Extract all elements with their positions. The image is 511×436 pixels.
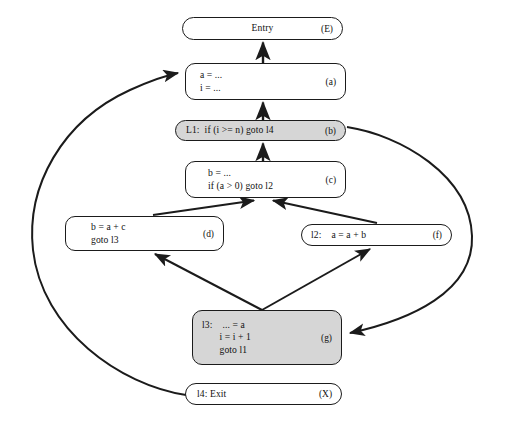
cfg-node-c[interactable]: b = ... if (a > 0) goto l2 (c) xyxy=(185,161,346,198)
node-d-tag: (d) xyxy=(203,229,214,239)
cfg-node-f[interactable]: l2: a = a + b (f) xyxy=(301,224,452,246)
edge-d-to-c xyxy=(153,201,254,216)
node-c-tag: (c) xyxy=(326,175,336,185)
node-a-line-0: a = ... xyxy=(200,69,222,82)
node-entry-tag: (E) xyxy=(321,24,333,34)
node-a-tag: (a) xyxy=(326,77,336,87)
node-a-body: a = ... i = ... xyxy=(200,64,311,99)
node-b-line-0: L1: if (i >= n) goto l4 xyxy=(186,124,274,137)
node-b-body: L1: if (i >= n) goto l4 xyxy=(186,121,311,140)
node-g-line-2: goto l1 xyxy=(202,344,247,357)
edge-g-to-f xyxy=(262,249,370,310)
node-f-body: l2: a = a + b xyxy=(311,225,417,245)
cfg-node-g[interactable]: l3: ... = a i = i + 1 goto l1 (g) xyxy=(192,310,342,365)
cfg-node-d[interactable]: b = a + c goto l3 (d) xyxy=(65,216,224,251)
node-f-line-0: l2: a = a + b xyxy=(311,229,366,242)
node-g-line-0: l3: ... = a xyxy=(202,319,245,332)
node-g-body: l3: ... = a i = i + 1 goto l1 xyxy=(202,311,307,364)
control-flow-graph-figure: Entry (E) a = ... i = ... (a) L1: if (i … xyxy=(0,0,511,436)
node-exit-body: l4: Exit xyxy=(197,384,307,404)
node-exit-tag: (X) xyxy=(319,389,332,399)
edge-g-to-d xyxy=(155,254,262,310)
node-d-line-1: goto l3 xyxy=(91,234,119,247)
cfg-node-exit[interactable]: l4: Exit (X) xyxy=(185,383,342,405)
cfg-node-b[interactable]: L1: if (i >= n) goto l4 (b) xyxy=(175,120,346,141)
node-exit-line-0: l4: Exit xyxy=(197,388,226,401)
edge-f-to-c xyxy=(273,201,377,224)
node-d-line-0: b = a + c xyxy=(91,221,126,234)
node-entry-line-0: Entry xyxy=(252,22,274,35)
cfg-node-entry[interactable]: Entry (E) xyxy=(182,17,343,40)
node-c-line-0: b = ... xyxy=(208,167,231,180)
node-b-tag: (b) xyxy=(325,126,336,136)
node-g-line-1: i = i + 1 xyxy=(202,331,251,344)
node-entry-body: Entry xyxy=(183,18,342,39)
node-c-line-1: if (a > 0) goto l2 xyxy=(208,180,273,193)
node-g-tag: (g) xyxy=(321,333,332,343)
cfg-node-a[interactable]: a = ... i = ... (a) xyxy=(185,63,346,100)
node-a-line-1: i = ... xyxy=(200,82,221,95)
node-c-body: b = ... if (a > 0) goto l2 xyxy=(208,162,311,197)
node-d-body: b = a + c goto l3 xyxy=(91,217,189,250)
node-f-tag: (f) xyxy=(433,230,442,240)
